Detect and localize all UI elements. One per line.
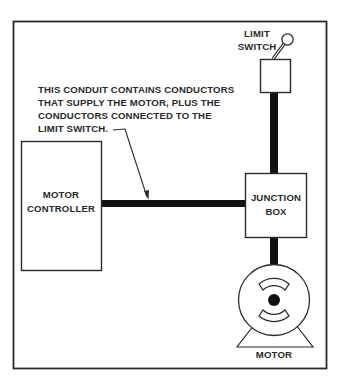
limit-switch-box bbox=[261, 60, 291, 93]
annotation-line-2: THAT SUPPLY THE MOTOR, PLUS THE bbox=[38, 97, 221, 108]
annotation-line-1: THIS CONDUIT CONTAINS CONDUCTORS bbox=[38, 84, 235, 95]
junction-box: JUNCTION BOX bbox=[246, 174, 307, 238]
motor-label: MOTOR bbox=[256, 349, 292, 360]
annotation-line-4: LIMIT SWITCH. bbox=[38, 123, 108, 134]
motor-controller: MOTOR CONTROLLER bbox=[22, 142, 102, 271]
conduit-junction-to-motor bbox=[270, 236, 278, 266]
motor-controller-label-line2: CONTROLLER bbox=[27, 203, 95, 214]
conduit-wiring-diagram: LIMIT SWITCH THIS CONDUIT CONTAINS CONDU… bbox=[0, 0, 340, 381]
limit-switch-label-line2: SWITCH bbox=[238, 41, 277, 52]
lever-knob-icon bbox=[282, 34, 293, 45]
limit-switch-label-line1: LIMIT bbox=[244, 28, 270, 39]
conduit-limit-switch-to-junction bbox=[270, 92, 278, 174]
annotation-line-3: CONDUCTORS CONNECTED TO THE bbox=[38, 110, 212, 121]
junction-box-label-line1: JUNCTION bbox=[251, 192, 301, 203]
motor: MOTOR bbox=[237, 265, 313, 361]
motor-shaft-icon bbox=[268, 294, 280, 306]
conduit-controller-to-junction bbox=[101, 200, 246, 207]
junction-box-label-line2: BOX bbox=[265, 206, 287, 217]
motor-controller-label-line1: MOTOR bbox=[43, 189, 79, 200]
